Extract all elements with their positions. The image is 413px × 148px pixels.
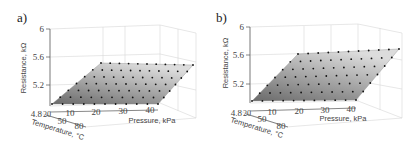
data-point — [356, 74, 358, 76]
data-point — [384, 65, 386, 67]
data-point — [122, 76, 124, 78]
data-point — [352, 91, 354, 93]
data-point — [163, 97, 165, 99]
data-point — [371, 58, 373, 60]
data-point — [324, 99, 326, 101]
data-point — [62, 103, 64, 105]
data-point — [115, 103, 117, 105]
data-point — [272, 100, 274, 102]
data-point — [78, 90, 80, 92]
data-point — [125, 83, 127, 85]
data-point — [94, 103, 96, 105]
data-point — [300, 61, 302, 63]
data-point — [350, 58, 352, 60]
data-point — [290, 92, 292, 94]
panel-label-a: a) — [17, 10, 27, 26]
data-point — [70, 96, 72, 98]
data-point — [355, 99, 357, 101]
data-point — [192, 64, 194, 66]
data-point — [101, 96, 103, 98]
data-point — [104, 103, 106, 105]
x-axis: 10 20 30 40 Pressure, kPa — [250, 104, 367, 123]
data-point — [83, 103, 85, 105]
z-tick-5-2: 5.2 — [233, 79, 244, 89]
data-point — [251, 100, 253, 102]
data-point — [293, 100, 295, 102]
data-point — [305, 76, 307, 78]
data-point — [266, 84, 268, 86]
data-point — [366, 74, 368, 76]
data-point — [111, 96, 113, 98]
data-point — [292, 68, 294, 70]
z-axis: 6 5.6 5.2 4.8 Resistance, kΩ — [19, 24, 50, 119]
data-point — [314, 100, 316, 102]
data-point — [135, 83, 137, 85]
data-point — [310, 60, 312, 62]
data-point — [362, 91, 364, 93]
x-tick-40: 40 — [146, 105, 156, 115]
data-point — [297, 53, 299, 55]
data-point — [282, 69, 284, 71]
data-point — [92, 69, 94, 71]
x-tick-30: 30 — [119, 106, 129, 116]
data-point — [137, 63, 139, 65]
data-point — [368, 50, 370, 52]
data-point — [312, 68, 314, 70]
data-point — [378, 49, 380, 51]
data-point — [284, 76, 286, 78]
data-point — [374, 66, 376, 68]
data-point — [158, 70, 160, 72]
data-point — [333, 67, 335, 69]
data-point — [108, 90, 110, 92]
y-tick-20: 20 — [243, 109, 251, 118]
data-point — [342, 91, 344, 93]
data-point — [353, 66, 355, 68]
panel-label-b: b) — [216, 10, 227, 26]
data-point — [132, 97, 134, 99]
data-point — [76, 83, 78, 85]
data-point — [84, 76, 86, 78]
data-point — [95, 83, 97, 85]
data-point — [72, 103, 74, 105]
data-point — [113, 76, 115, 78]
data-point — [318, 83, 320, 85]
z-axis: 6 5.6 5.2 4.8 Resistance, kΩ — [221, 22, 250, 118]
data-point — [59, 96, 61, 98]
data-point — [323, 67, 325, 69]
data-point — [349, 83, 351, 85]
data-point — [398, 48, 400, 50]
data-point — [183, 64, 185, 66]
data-point — [381, 57, 383, 59]
data-point — [105, 83, 107, 85]
chart-panel-b: 6 5.6 5.2 4.8 Resistance, kΩ 10 20 30 40… — [206, 0, 412, 148]
data-point — [146, 63, 148, 65]
data-point — [259, 92, 261, 94]
data-point — [327, 52, 329, 54]
data-point — [101, 69, 103, 71]
y-tick-20: 20 — [43, 110, 51, 119]
data-point — [315, 75, 317, 77]
data-point — [307, 53, 309, 55]
data-point — [149, 70, 151, 72]
data-point — [128, 63, 130, 65]
data-point — [289, 61, 291, 63]
data-point — [300, 92, 302, 94]
data-point — [369, 82, 371, 84]
data-point — [115, 83, 117, 85]
z-tick-5-6: 5.6 — [233, 50, 245, 60]
data-point — [171, 77, 173, 79]
data-point — [321, 91, 323, 93]
chart-panel-a: 6 5.6 5.2 4.8 Resistance, kΩ 10 20 30 40… — [0, 0, 206, 148]
data-point — [343, 67, 345, 69]
data-point — [308, 84, 310, 86]
data-point — [262, 100, 264, 102]
data-point — [297, 84, 299, 86]
data-point — [153, 97, 155, 99]
data-point — [139, 70, 141, 72]
data-point — [51, 103, 53, 105]
x-tick-10: 10 — [268, 107, 278, 117]
data-point — [311, 91, 313, 93]
data-point — [391, 57, 393, 59]
z-axis-label: Resistance, kΩ — [221, 37, 230, 88]
data-point — [340, 59, 342, 61]
